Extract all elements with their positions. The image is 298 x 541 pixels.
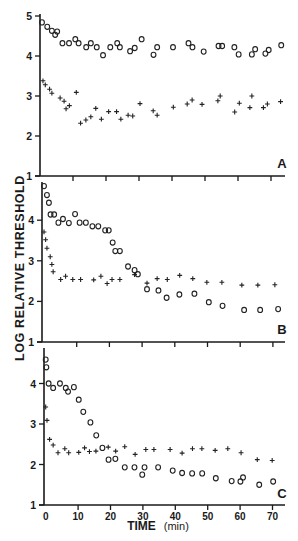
y-axis-label: LOG RELATIVE THRESHOLD — [13, 175, 27, 361]
data-point-cross — [49, 262, 54, 267]
x-tick-label: 50 — [202, 511, 214, 522]
data-point-cross — [58, 277, 63, 282]
data-point-cross — [190, 446, 195, 451]
data-point-cross — [87, 449, 92, 454]
x-tick-label: 70 — [267, 511, 279, 522]
data-point-cross — [63, 274, 68, 279]
data-point-circle — [177, 292, 182, 297]
data-point-circle — [142, 465, 147, 470]
y-tick-label: 3 — [26, 90, 32, 102]
series-circles — [43, 357, 275, 487]
data-point-cross — [255, 457, 260, 462]
data-point-circle — [45, 24, 50, 29]
data-point-circle — [128, 49, 133, 54]
data-point-cross — [62, 446, 67, 451]
y-tick-label: 2 — [30, 459, 36, 471]
data-point-cross — [239, 450, 244, 455]
data-point-circle — [164, 295, 169, 300]
data-point-cross — [185, 102, 190, 107]
data-point-cross — [78, 277, 83, 282]
data-point-cross — [94, 449, 99, 454]
data-point-cross — [219, 280, 224, 285]
data-point-cross — [67, 103, 72, 108]
three-panel-scatter-plot: 12345A1234B1234010203040506070C LOG RELA… — [0, 0, 298, 541]
panel-label: A — [277, 156, 287, 171]
data-point-circle — [94, 433, 99, 438]
data-point-cross — [143, 447, 148, 452]
data-point-circle — [220, 303, 225, 308]
data-point-cross — [171, 105, 176, 110]
data-point-cross — [106, 445, 111, 450]
data-point-cross — [249, 94, 254, 99]
data-point-cross — [49, 91, 54, 96]
data-point-circle — [190, 471, 195, 476]
data-point-cross — [190, 276, 195, 281]
data-point-circle — [236, 52, 241, 57]
y-tick-label: 4 — [28, 214, 34, 226]
y-tick-label: 2 — [28, 295, 34, 307]
data-point-cross — [51, 443, 56, 448]
data-point-cross — [168, 447, 173, 452]
data-point-circle — [73, 212, 78, 217]
data-point-circle — [88, 41, 93, 46]
data-point-circle — [96, 224, 101, 229]
data-point-circle — [190, 45, 195, 50]
x-axis-label: TIME(min) — [127, 519, 189, 533]
data-point-cross — [62, 99, 67, 104]
y-tick-label: 5 — [26, 10, 32, 22]
data-point-cross — [145, 281, 150, 286]
data-point-circle — [132, 45, 137, 50]
data-point-cross — [261, 105, 266, 110]
data-point-circle — [200, 471, 205, 476]
data-point-cross — [91, 277, 96, 282]
series-crosses — [43, 405, 274, 463]
data-point-cross — [204, 280, 209, 285]
y-tick-label: 4 — [26, 50, 32, 62]
data-point-cross — [45, 418, 50, 423]
data-point-circle — [258, 307, 263, 312]
data-point-cross — [213, 448, 218, 453]
data-point-cross — [74, 90, 79, 95]
data-point-circle — [66, 220, 71, 225]
panel-c: 1234010203040506070C — [30, 348, 287, 522]
data-point-circle — [56, 220, 61, 225]
data-point-cross — [165, 277, 170, 282]
data-point-cross — [200, 102, 205, 107]
data-point-circle — [71, 385, 76, 390]
y-tick-label: 3 — [30, 418, 36, 430]
data-point-cross — [177, 273, 182, 278]
data-point-circle — [180, 470, 185, 475]
data-point-circle — [61, 216, 66, 221]
data-point-cross — [272, 282, 277, 287]
data-point-cross — [218, 94, 223, 99]
y-tick-label: 4 — [30, 378, 36, 390]
data-point-cross — [239, 283, 244, 288]
data-point-circle — [232, 45, 237, 50]
series-circles — [40, 20, 284, 58]
data-point-cross — [64, 106, 69, 111]
data-point-cross — [83, 118, 88, 123]
data-point-cross — [117, 277, 122, 282]
data-point-cross — [51, 269, 56, 274]
data-point-cross — [278, 99, 283, 104]
panel-label: B — [277, 322, 286, 337]
x-tick-label: 0 — [43, 511, 49, 522]
panel-label: C — [277, 486, 287, 501]
data-point-circle — [47, 200, 52, 205]
panel-b: 1234B — [28, 182, 287, 348]
data-point-cross — [118, 117, 123, 122]
data-point-circle — [206, 300, 211, 305]
data-point-cross — [155, 113, 160, 118]
data-point-circle — [94, 45, 99, 50]
data-point-circle — [242, 307, 247, 312]
data-point-circle — [151, 52, 156, 57]
y-tick-label: 1 — [30, 499, 36, 511]
data-point-cross — [190, 98, 195, 103]
data-point-circle — [81, 409, 86, 414]
data-point-cross — [155, 276, 160, 281]
data-point-circle — [110, 240, 115, 245]
data-point-cross — [199, 446, 204, 451]
data-point-circle — [276, 307, 281, 312]
data-point-circle — [117, 45, 122, 50]
data-point-circle — [100, 445, 105, 450]
